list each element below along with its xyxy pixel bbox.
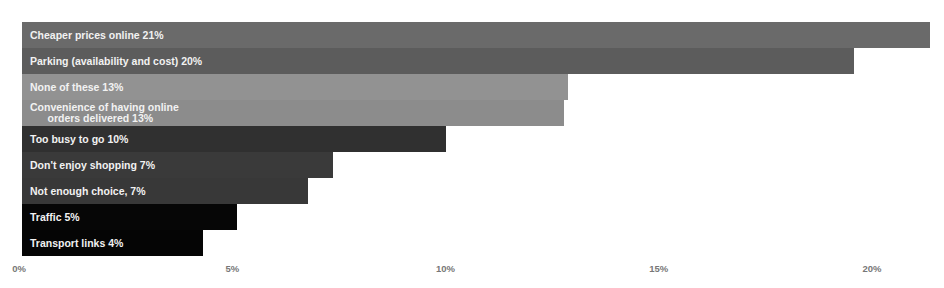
bar-label: Cheaper prices online 21%	[30, 29, 164, 41]
bar-label: Too busy to go 10%	[30, 133, 128, 145]
bar-label: Transport links 4%	[30, 237, 123, 249]
bar-chart: Cheaper prices online 21%Parking (availa…	[0, 0, 944, 288]
bar: None of these 13%	[22, 74, 568, 100]
x-tick-label: 5%	[225, 263, 239, 274]
x-tick-label: 15%	[649, 263, 668, 274]
bar: Traffic 5%	[22, 204, 237, 230]
bar: Convenience of having online orders deli…	[22, 100, 564, 126]
bar: Too busy to go 10%	[22, 126, 446, 152]
bar-label: Not enough choice, 7%	[30, 185, 146, 197]
bar: Cheaper prices online 21%	[22, 22, 930, 48]
bar-label: Parking (availability and cost) 20%	[30, 55, 202, 67]
x-tick-label: 0%	[12, 263, 26, 274]
bar-label: Don't enjoy shopping 7%	[30, 159, 155, 171]
bar-label: Convenience of having online orders deli…	[30, 102, 179, 124]
bar-label: None of these 13%	[30, 81, 123, 93]
x-tick-label: 20%	[862, 263, 881, 274]
bar: Not enough choice, 7%	[22, 178, 308, 204]
bar: Parking (availability and cost) 20%	[22, 48, 854, 74]
bar: Transport links 4%	[22, 230, 203, 256]
x-tick-label: 10%	[436, 263, 455, 274]
bar-label: Traffic 5%	[30, 211, 80, 223]
bar: Don't enjoy shopping 7%	[22, 152, 333, 178]
